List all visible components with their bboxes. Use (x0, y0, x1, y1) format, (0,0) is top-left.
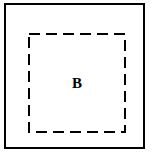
region-label-b: B (28, 33, 126, 133)
outer-boundary-rectangle: B (4, 3, 145, 149)
dashed-region-rectangle: B (28, 33, 126, 133)
diagram-canvas: B (0, 0, 152, 157)
region-label-text: B (72, 76, 82, 91)
